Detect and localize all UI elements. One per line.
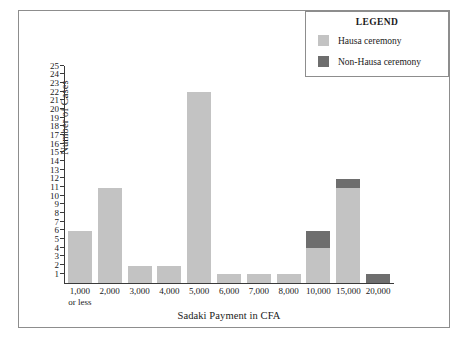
legend-label-non-hausa: Non-Hausa ceremony [338,57,421,67]
bar-stack [306,231,330,283]
y-tick-7: 7 [42,218,64,227]
y-tick-3: 3 [42,252,64,261]
bar-segment-hausa[interactable] [157,266,181,283]
bar-stack [128,266,152,283]
bar-stack [98,188,122,283]
bar-segment-hausa[interactable] [217,274,241,283]
y-tick-1: 1 [42,270,64,279]
bar-segment-non-hausa[interactable] [336,179,360,188]
bar-stack [366,274,390,283]
x-axis-line [64,283,394,284]
y-tick-6: 6 [42,226,64,235]
bar-segment-hausa[interactable] [68,231,92,283]
bar-segment-hausa[interactable] [277,274,301,283]
legend-title: LEGEND [306,17,448,27]
y-tick-10: 10 [42,192,64,201]
bars-area [65,66,393,283]
y-tick-label: 1 [55,270,60,279]
bar-stack [68,231,92,283]
legend-swatch-hausa [318,35,329,46]
bar-segment-hausa[interactable] [98,188,122,283]
bar-segment-hausa[interactable] [187,92,211,283]
bar-group[interactable] [98,66,122,283]
bar-group[interactable] [128,66,152,283]
legend-entry-non-hausa: Non-Hausa ceremony [318,56,421,67]
legend-label-hausa: Hausa ceremony [338,36,402,46]
bar-group[interactable] [336,66,360,283]
x-tick-label: 20,000 [352,286,404,297]
y-tick-2: 2 [42,261,64,270]
y-tick-4: 4 [42,244,64,253]
bar-segment-hausa[interactable] [336,188,360,283]
bar-group[interactable] [366,66,390,283]
bar-stack [217,274,241,283]
bar-segment-hausa[interactable] [306,248,330,283]
bar-stack [277,274,301,283]
y-axis-ticks: 2524232221201918171615141312111098765432… [42,66,64,284]
bar-stack [247,274,271,283]
bar-group[interactable] [247,66,271,283]
bar-group[interactable] [157,66,181,283]
bar-segment-hausa[interactable] [128,266,152,283]
bar-segment-hausa[interactable] [247,274,271,283]
bar-stack [336,179,360,283]
bar-group[interactable] [217,66,241,283]
legend: LEGEND Hausa ceremony Non-Hausa ceremony [305,11,449,77]
x-axis-title: Sadaki Payment in CFA [65,310,393,321]
legend-entry-hausa: Hausa ceremony [318,35,402,46]
bar-segment-non-hausa[interactable] [366,274,390,283]
bar-stack [157,266,181,283]
y-tick-8: 8 [42,209,64,218]
y-tick-9: 9 [42,200,64,209]
legend-swatch-non-hausa [318,56,329,67]
bar-segment-non-hausa[interactable] [306,231,330,248]
bar-stack [187,92,211,283]
y-tick-5: 5 [42,235,64,244]
bar-group[interactable] [68,66,92,283]
chart-figure: Number of Cases 252423222120191817161514… [0,0,468,349]
bar-group[interactable] [187,66,211,283]
bar-group[interactable] [277,66,301,283]
bar-group[interactable] [306,66,330,283]
